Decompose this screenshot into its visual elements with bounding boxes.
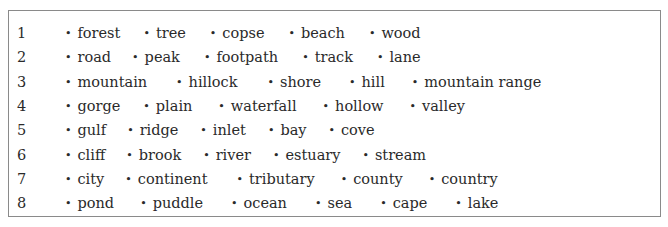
word-item: •city <box>65 167 104 192</box>
word-item: •lake <box>455 191 498 216</box>
bullet-icon: • <box>65 22 72 46</box>
bullet-icon: • <box>65 46 72 70</box>
word-item: •stream <box>362 143 426 168</box>
word-item: •forest <box>65 21 120 46</box>
bullet-icon: • <box>323 95 330 119</box>
bullet-icon: • <box>65 192 72 216</box>
word-text: ocean <box>244 195 287 211</box>
word-group: •forest•tree•copse•beach•wood <box>65 21 421 46</box>
bullet-icon: • <box>349 71 356 95</box>
word-item: •hillock <box>176 70 237 95</box>
bullet-icon: • <box>125 168 132 192</box>
word-text: tributary <box>249 171 315 187</box>
bullet-icon: • <box>218 95 225 119</box>
row-number: 6 <box>17 143 47 167</box>
bullet-icon: • <box>143 95 150 119</box>
word-group: •mountain•hillock•shore•hill•mountain ra… <box>65 70 541 95</box>
word-item: •ridge <box>127 118 178 143</box>
bullet-icon: • <box>127 119 134 143</box>
word-text: estuary <box>285 147 340 163</box>
word-item: •tributary <box>237 167 315 192</box>
bullet-icon: • <box>65 168 72 192</box>
word-text: valley <box>422 98 465 114</box>
word-list-box: 1•forest•tree•copse•beach•wood2•road•pea… <box>8 10 661 217</box>
word-item: •track <box>302 45 353 70</box>
word-item: •copse <box>210 21 265 46</box>
word-item: •road <box>65 45 111 70</box>
word-item: •mountain range <box>412 70 542 95</box>
word-text: peak <box>145 49 180 65</box>
word-text: city <box>78 171 105 187</box>
bullet-icon: • <box>410 95 417 119</box>
bullet-icon: • <box>288 22 295 46</box>
word-text: mountain range <box>424 74 541 90</box>
word-item: •plain <box>143 94 192 119</box>
word-text: beach <box>301 25 345 41</box>
word-text: hillock <box>189 74 238 90</box>
word-item: •valley <box>410 94 465 119</box>
row-number: 2 <box>17 45 47 69</box>
word-text: mountain <box>78 74 148 90</box>
word-text: plain <box>156 98 193 114</box>
word-item: •county <box>341 167 403 192</box>
word-text: gulf <box>78 122 107 138</box>
word-item: •peak <box>132 45 180 70</box>
bullet-icon: • <box>140 192 147 216</box>
word-item: •continent <box>125 167 207 192</box>
word-text: track <box>315 49 353 65</box>
row-number: 3 <box>17 70 47 94</box>
bullet-icon: • <box>143 22 150 46</box>
word-group: •road•peak•footpath•track•lane <box>65 45 421 70</box>
row-number: 8 <box>17 191 47 215</box>
word-item: •gulf <box>65 118 106 143</box>
word-item: •country <box>429 167 498 192</box>
bullet-icon: • <box>176 71 183 95</box>
word-item: •shore <box>268 70 322 95</box>
bullet-icon: • <box>429 168 436 192</box>
word-text: cliff <box>78 147 106 163</box>
word-item: •tree <box>143 21 185 46</box>
word-group: •gorge•plain•waterfall•hollow•valley <box>65 94 465 119</box>
bullet-icon: • <box>412 71 419 95</box>
bullet-icon: • <box>65 95 72 119</box>
word-item: •hill <box>349 70 385 95</box>
word-item: •puddle <box>140 191 203 216</box>
word-text: waterfall <box>231 98 297 114</box>
word-text: brook <box>139 147 181 163</box>
word-item: •brook <box>126 143 181 168</box>
word-text: sea <box>327 195 352 211</box>
word-text: river <box>216 147 251 163</box>
bullet-icon: • <box>273 144 280 168</box>
word-text: forest <box>78 25 121 41</box>
bullet-icon: • <box>65 119 72 143</box>
word-item: •mountain <box>65 70 147 95</box>
bullet-icon: • <box>268 71 275 95</box>
bullet-icon: • <box>380 192 387 216</box>
word-text: hollow <box>335 98 383 114</box>
word-text: shore <box>280 74 321 90</box>
word-group: •gulf•ridge•inlet•bay•cove <box>65 118 375 143</box>
word-item: •gorge <box>65 94 120 119</box>
bullet-icon: • <box>200 119 207 143</box>
word-text: bay <box>280 122 306 138</box>
bullet-icon: • <box>204 46 211 70</box>
row-number: 5 <box>17 118 47 142</box>
word-item: •bay <box>268 118 307 143</box>
bullet-icon: • <box>341 168 348 192</box>
bullet-icon: • <box>65 71 72 95</box>
word-text: copse <box>222 25 264 41</box>
word-text: cove <box>341 122 375 138</box>
word-text: puddle <box>153 195 203 211</box>
word-item: •beach <box>288 21 344 46</box>
bullet-icon: • <box>302 46 309 70</box>
word-text: footpath <box>216 49 278 65</box>
word-item: •pond <box>65 191 114 216</box>
word-group: •city•continent•tributary•county•country <box>65 167 498 192</box>
word-text: stream <box>375 147 426 163</box>
word-text: tree <box>156 25 186 41</box>
bullet-icon: • <box>329 119 336 143</box>
bullet-icon: • <box>132 46 139 70</box>
word-item: •sea <box>315 191 352 216</box>
word-text: road <box>78 49 112 65</box>
bullet-icon: • <box>65 144 72 168</box>
